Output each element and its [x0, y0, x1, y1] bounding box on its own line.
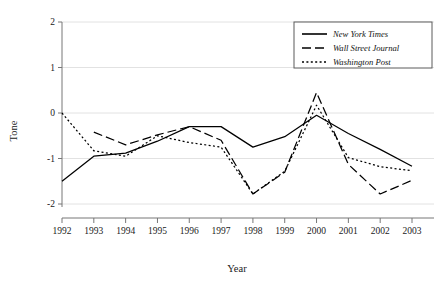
x-tick-label: 2001	[339, 226, 358, 236]
x-tick-label: 1999	[275, 226, 294, 236]
series-line-wall-street-journal	[94, 93, 412, 194]
y-tick-label: 1	[50, 63, 55, 73]
x-tick-labels: 1992199319941995199619971998199920002001…	[53, 226, 422, 236]
y-tick-label: 2	[50, 17, 55, 27]
data-series-group	[62, 93, 412, 194]
legend-label: New York Times	[332, 29, 389, 39]
x-tick-label: 2000	[307, 226, 326, 236]
x-tick-label: 1998	[243, 226, 262, 236]
y-axis	[58, 22, 62, 207]
y-tick-labels: 210-1-2	[47, 17, 55, 209]
x-tick-label: 2003	[403, 226, 422, 236]
y-tick-label: -1	[47, 154, 55, 164]
x-axis-title: Year	[227, 263, 247, 274]
y-tick-label: 0	[50, 108, 55, 118]
x-tick-label: 1994	[116, 226, 135, 236]
x-tick-label: 1992	[53, 226, 72, 236]
x-tick-label: 1996	[180, 226, 199, 236]
x-tick-label: 1993	[84, 226, 103, 236]
legend: New York TimesWall Street JournalWashing…	[294, 22, 432, 68]
series-line-washington-post	[62, 105, 412, 194]
x-tick-label: 2002	[371, 226, 390, 236]
y-tick-label: -2	[47, 199, 55, 209]
tone-by-year-line-chart: 210-1-2 19921993199419951996199719981999…	[0, 0, 443, 287]
chart-figure: 210-1-2 19921993199419951996199719981999…	[0, 0, 443, 287]
x-tick-label: 1995	[148, 226, 167, 236]
legend-label: Washington Post	[333, 57, 391, 67]
y-axis-title: Tone	[8, 120, 19, 141]
x-tick-label: 1997	[212, 226, 231, 236]
legend-label: Wall Street Journal	[333, 43, 400, 53]
x-axis	[62, 218, 434, 223]
